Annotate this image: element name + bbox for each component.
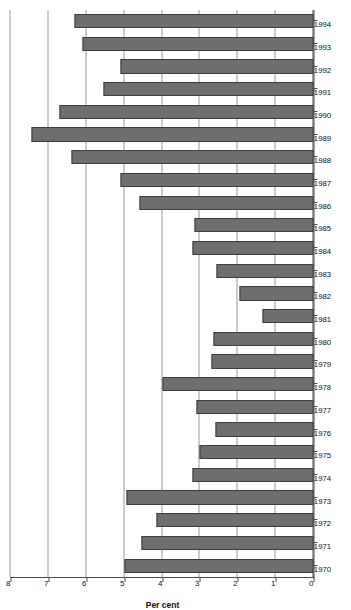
bar-slot: 1984 (10, 237, 313, 260)
chart-stage: 012345678 Per cent 197019711972197319741… (0, 0, 351, 610)
bar-slot: 1975 (10, 441, 313, 464)
bar (239, 286, 313, 300)
value-axis-title: Per cent (145, 600, 179, 610)
bar-slot: 1971 (10, 532, 313, 555)
value-tick-label: 5 (119, 580, 123, 588)
bar (213, 332, 313, 346)
bar-slot: 1989 (10, 123, 313, 146)
category-label: 1992 (313, 67, 330, 75)
bar (71, 150, 313, 164)
category-label: 1991 (313, 89, 330, 97)
plot-area: 012345678 Per cent 197019711972197319741… (10, 10, 314, 578)
value-tick-label: 1 (271, 580, 275, 588)
bar (162, 377, 314, 391)
bar-slot: 1994 (10, 10, 313, 33)
bar (31, 127, 313, 141)
bar (103, 82, 313, 96)
bar (196, 400, 313, 414)
category-label: 1989 (313, 135, 330, 143)
bar-slot: 1983 (10, 259, 313, 282)
category-label: 1978 (313, 384, 330, 392)
bar-slot: 1990 (10, 101, 313, 124)
bar (211, 354, 313, 368)
bar-slot: 1987 (10, 169, 313, 192)
bar-slot: 1993 (10, 33, 313, 56)
bar (126, 490, 313, 504)
bar-slot: 1985 (10, 214, 313, 237)
category-label: 1984 (313, 248, 330, 256)
bar (141, 536, 313, 550)
bar-slot: 1976 (10, 418, 313, 441)
bar-slot: 1992 (10, 55, 313, 78)
bar-slot: 1982 (10, 282, 313, 305)
bar (120, 173, 313, 187)
category-label: 1986 (313, 203, 330, 211)
bar (82, 37, 313, 51)
category-label: 1988 (313, 157, 330, 165)
bar (192, 468, 313, 482)
bar-slot: 1974 (10, 464, 313, 487)
bar (139, 196, 313, 210)
bar (194, 218, 313, 232)
bar-slot: 1980 (10, 327, 313, 350)
category-label: 1983 (313, 271, 330, 279)
bar (192, 241, 313, 255)
bar-slot: 1972 (10, 509, 313, 532)
category-label: 1985 (313, 225, 330, 233)
value-tick-label: 0 (309, 580, 313, 588)
category-label: 1971 (313, 543, 330, 551)
bar (59, 105, 313, 119)
category-label: 1980 (313, 339, 330, 347)
bar (120, 59, 313, 73)
category-label: 1973 (313, 498, 330, 506)
value-tick-label: 4 (157, 580, 161, 588)
chart-page: 012345678 Per cent 197019711972197319741… (0, 0, 351, 610)
bar-slot: 1988 (10, 146, 313, 169)
category-label: 1994 (313, 21, 330, 29)
bar-series: 1970197119721973197419751976197719781979… (10, 10, 313, 577)
category-label: 1976 (313, 430, 330, 438)
bar (262, 309, 313, 323)
category-label: 1974 (313, 475, 330, 483)
bar-slot: 1986 (10, 191, 313, 214)
bar (74, 14, 313, 28)
value-tick-label: 6 (81, 580, 85, 588)
bar-slot: 1979 (10, 350, 313, 373)
value-tick-label: 3 (195, 580, 199, 588)
category-label: 1990 (313, 112, 330, 120)
value-tick (199, 577, 200, 582)
bar (216, 264, 313, 278)
bar-slot: 1970 (10, 554, 313, 577)
category-label: 1970 (313, 566, 330, 574)
bar (199, 445, 313, 459)
category-label: 1982 (313, 293, 330, 301)
category-label: 1993 (313, 44, 330, 52)
bar-slot: 1977 (10, 396, 313, 419)
bar-slot: 1991 (10, 78, 313, 101)
bar-slot: 1973 (10, 486, 313, 509)
value-tick-label: 7 (43, 580, 47, 588)
bar-slot: 1981 (10, 305, 313, 328)
value-tick-label: 2 (233, 580, 237, 588)
value-tick-label: 8 (6, 580, 10, 588)
category-label: 1972 (313, 520, 330, 528)
bar (215, 422, 313, 436)
category-label: 1987 (313, 180, 330, 188)
category-label: 1975 (313, 452, 330, 460)
category-label: 1979 (313, 361, 330, 369)
category-label: 1977 (313, 407, 330, 415)
category-label: 1981 (313, 316, 330, 324)
bar (156, 513, 313, 527)
bar (124, 559, 313, 573)
bar-slot: 1978 (10, 373, 313, 396)
